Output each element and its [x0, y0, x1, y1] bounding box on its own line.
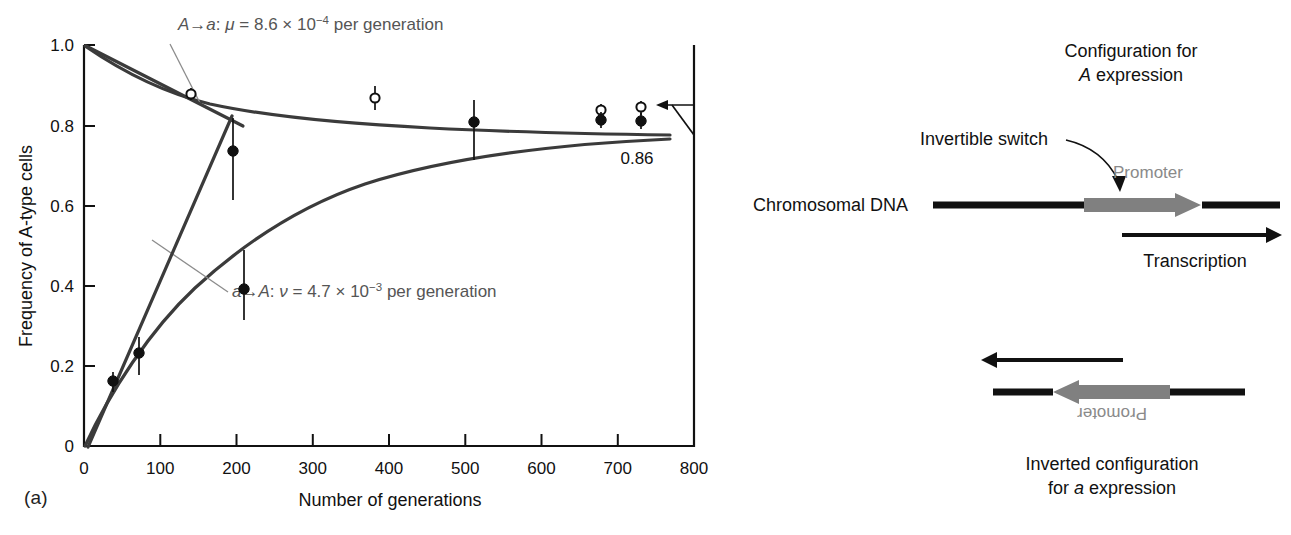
bottom-caption-line2: for a expression — [1048, 478, 1176, 498]
x-axis-tick-labels: 0 100 200 300 400 500 600 700 800 — [79, 459, 708, 478]
svg-text:A→a: μ = 8.6 × 10−4 per genera: A→a: μ = 8.6 × 10−4 per generation — [177, 14, 443, 34]
y-tick-label: 0.6 — [50, 197, 74, 216]
x-tick-label: 0 — [79, 459, 88, 478]
top-caption-line2: A expression — [1078, 65, 1183, 85]
data-point — [228, 118, 238, 200]
bottom-caption-line1: Inverted configuration — [1025, 454, 1198, 474]
data-point — [636, 101, 645, 115]
annotation-mu: A→a: μ = 8.6 × 10−4 per generation — [170, 14, 443, 103]
svg-text:a→A: ν = 4.7 × 10−3 per genera: a→A: ν = 4.7 × 10−3 per generation — [232, 281, 497, 301]
x-tick-label: 400 — [375, 459, 403, 478]
top-promoter-label: Promoter — [1113, 163, 1183, 182]
mutation-frequency-plot: 0 0.2 0.4 0.6 0.8 1.0 0 100 200 300 400 … — [0, 0, 740, 535]
x-tick-label: 800 — [680, 459, 708, 478]
invertible-switch-diagram: Configuration for A expression Invertibl… — [740, 0, 1291, 535]
bottom-configuration-group: Promoter Inverted configuration for a ex… — [981, 352, 1245, 498]
bottom-caption-for: for — [1048, 478, 1069, 498]
x-tick-label: 700 — [604, 459, 632, 478]
y-tick-label: 0 — [65, 437, 74, 456]
data-point — [636, 113, 646, 129]
bottom-caption-italic-a: a — [1074, 478, 1084, 498]
x-tick-label: 100 — [146, 459, 174, 478]
y-axis-tick-labels: 0 0.2 0.4 0.6 0.8 1.0 — [50, 36, 74, 456]
top-configuration-group: Configuration for A expression Invertibl… — [753, 41, 1282, 271]
y-tick-label: 0.4 — [50, 277, 74, 296]
y-tick-label: 0.8 — [50, 117, 74, 136]
x-tick-label: 500 — [451, 459, 479, 478]
data-point — [186, 88, 195, 100]
x-tick-label: 300 — [299, 459, 327, 478]
y-tick-label: 1.0 — [50, 36, 74, 55]
bottom-caption-expression: expression — [1089, 478, 1176, 498]
equilibrium-arrow-head — [656, 100, 668, 110]
promoter-arrow-icon — [1084, 193, 1201, 217]
y-axis-ticks — [84, 45, 95, 446]
data-point — [596, 112, 606, 128]
invertible-switch-label: Invertible switch — [920, 129, 1048, 149]
series-filled-circles — [108, 100, 646, 392]
x-tick-label: 200 — [222, 459, 250, 478]
top-caption-italic-A: A — [1078, 65, 1091, 85]
top-caption-expression: expression — [1096, 65, 1183, 85]
equilibrium-value-label: 0.86 — [620, 149, 653, 168]
y-axis-title: Frequency of A-type cells — [16, 145, 36, 347]
panel-a-chart: 0 0.2 0.4 0.6 0.8 1.0 0 100 200 300 400 … — [0, 0, 740, 535]
data-point — [370, 86, 379, 110]
tangent-guide-line — [86, 46, 243, 126]
x-tick-label: 600 — [527, 459, 555, 478]
annotation-nu: a→A: ν = 4.7 × 10−3 per generation — [152, 240, 497, 301]
x-axis-title: Number of generations — [298, 490, 481, 510]
transcription-arrowhead-icon — [1266, 227, 1282, 243]
inverted-promoter-arrow-icon — [1053, 380, 1170, 404]
data-point — [239, 250, 249, 320]
invertible-switch-pointer-icon — [1066, 140, 1118, 180]
chromosomal-dna-label: Chromosomal DNA — [753, 195, 908, 215]
x-axis-ticks — [84, 434, 694, 446]
panel-b-diagram: Configuration for A expression Invertibl… — [740, 0, 1291, 535]
transcription-label: Transcription — [1143, 251, 1246, 271]
top-caption-line1: Configuration for — [1064, 41, 1197, 61]
bottom-promoter-label: Promoter — [1077, 404, 1147, 423]
inverted-transcription-arrowhead-icon — [981, 352, 997, 368]
data-point — [134, 337, 144, 375]
tangent-guide-line-2 — [88, 116, 232, 447]
y-tick-label: 0.2 — [50, 357, 74, 376]
panel-a-label: (a) — [24, 487, 48, 509]
